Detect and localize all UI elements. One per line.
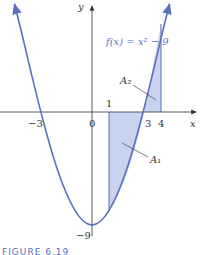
curve-arrow-right: [168, 5, 170, 11]
tick-label-3: 3: [145, 118, 151, 129]
function-label: f(x) = x² − 9: [105, 36, 169, 47]
tick-label-4: 4: [158, 118, 164, 129]
tick-label-neg9: −9: [76, 230, 91, 241]
y-axis-label: y: [77, 1, 84, 12]
vertex-point: [91, 224, 94, 227]
region-label-a1: A₁: [149, 154, 161, 165]
figure-caption: FIGURE 6.19: [2, 247, 69, 255]
curve-arrow-left: [15, 5, 17, 11]
x-axis-label: x: [190, 118, 196, 129]
tick-label-neg3: −3: [28, 118, 43, 129]
tick-label-1: 1: [106, 98, 112, 109]
tick-label-0: 0: [89, 118, 95, 129]
figure-plot: y x −3 0 1 3 4 −9 f(x) = x² − 9 A₂ A₁: [0, 0, 200, 255]
region-label-a2: A₂: [119, 75, 131, 86]
